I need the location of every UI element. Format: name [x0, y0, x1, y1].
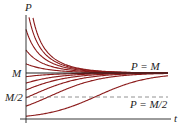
logistic-curves-chart: P t M M/2 P = M P = M/2 [0, 0, 180, 133]
annotation-P-equals-M-half: P = M/2 [129, 98, 168, 110]
solution-curve [26, 73, 168, 90]
annotation-P-equals-M: P = M [130, 60, 160, 72]
solution-curve [26, 73, 168, 98]
x-axis-label: t [174, 112, 178, 124]
tick-label-M-half: M/2 [4, 91, 23, 103]
y-axis-label: P [24, 1, 32, 13]
tick-label-M: M [11, 67, 22, 79]
